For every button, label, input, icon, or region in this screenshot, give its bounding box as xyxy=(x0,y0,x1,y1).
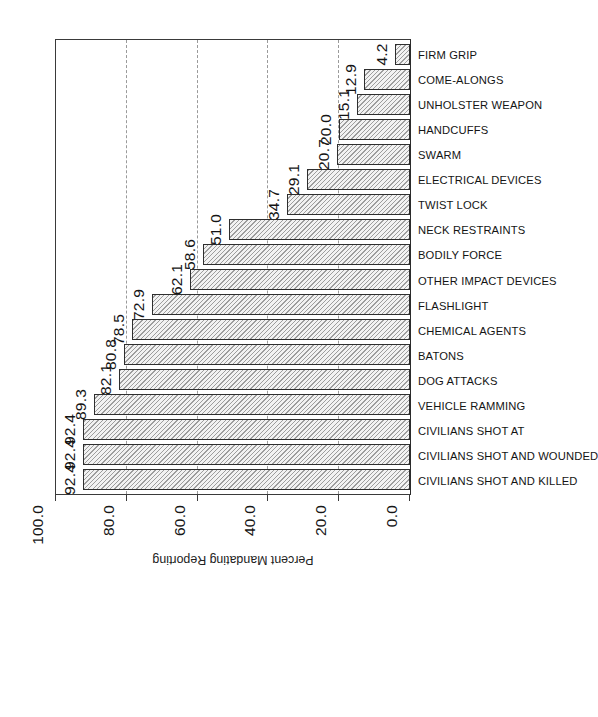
bar-series: 92.492.492.489.382.180.878.572.962.158.6… xyxy=(56,40,410,494)
bar[interactable]: 92.4 xyxy=(83,444,410,465)
value-axis-title: Percent Mandating Reporting xyxy=(55,553,411,567)
bar-slot: 62.1 xyxy=(56,267,410,292)
category-slot: CIVILIANS SHOT AT xyxy=(411,418,435,443)
category-slot: FIRM GRIP xyxy=(411,41,435,66)
bar[interactable]: 34.7 xyxy=(287,194,410,215)
bar-value-label: 51.0 xyxy=(207,214,225,245)
bar-slot: 72.9 xyxy=(56,292,410,317)
value-axis-tick xyxy=(409,494,410,501)
bar[interactable]: 4.2 xyxy=(395,44,410,65)
bar[interactable]: 82.1 xyxy=(119,369,410,390)
value-axis-tick-label: 60.0 xyxy=(171,505,189,536)
bar-slot: 92.4 xyxy=(56,467,410,492)
bar[interactable]: 20.7 xyxy=(337,144,410,165)
category-slot: OTHER IMPACT DEVICES xyxy=(411,267,435,292)
value-axis-tick xyxy=(338,494,339,501)
value-axis-tick-label: 100.0 xyxy=(29,505,47,545)
value-axis-tick xyxy=(267,494,268,501)
bar-slot: 92.4 xyxy=(56,417,410,442)
category-label: BATONS xyxy=(418,350,464,362)
category-label: TWIST LOCK xyxy=(418,199,488,211)
plot-area: 0.020.040.060.080.0100.0 92.492.492.489.… xyxy=(55,39,411,495)
category-slot: HANDCUFFS xyxy=(411,116,435,141)
bar[interactable]: 92.4 xyxy=(83,469,410,490)
category-axis-labels: CIVILIANS SHOT AND KILLEDCIVILIANS SHOT … xyxy=(411,39,435,495)
category-label: FLASHLIGHT xyxy=(418,300,489,312)
bar-value-label: 29.1 xyxy=(285,164,303,195)
bar-value-label: 12.9 xyxy=(342,64,360,95)
category-slot: COME-ALONGS xyxy=(411,66,435,91)
bar[interactable]: 58.6 xyxy=(203,244,410,265)
bar-slot: 80.8 xyxy=(56,342,410,367)
bar[interactable]: 72.9 xyxy=(152,294,410,315)
bar[interactable]: 20.0 xyxy=(339,119,410,140)
category-label: COME-ALONGS xyxy=(418,74,504,86)
value-axis-tick xyxy=(55,494,56,501)
category-label: FIRM GRIP xyxy=(418,49,477,61)
bar[interactable]: 29.1 xyxy=(307,169,410,190)
bar-value-label: 78.5 xyxy=(110,314,128,345)
bar-slot: 51.0 xyxy=(56,217,410,242)
category-slot: CHEMICAL AGENTS xyxy=(411,317,435,342)
bar-value-label: 89.3 xyxy=(72,389,90,420)
category-label: VEHICLE RAMMING xyxy=(418,400,525,412)
category-slot: ELECTRICAL DEVICES xyxy=(411,167,435,192)
category-slot: VEHICLE RAMMING xyxy=(411,393,435,418)
value-axis-tick-label: 80.0 xyxy=(100,505,118,536)
bar-value-label: 20.0 xyxy=(317,114,335,145)
bar-slot: 78.5 xyxy=(56,317,410,342)
bar-slot: 20.0 xyxy=(56,117,410,142)
bar-slot: 20.7 xyxy=(56,142,410,167)
bar-value-label: 4.2 xyxy=(373,43,391,65)
category-slot: DOG ATTACKS xyxy=(411,367,435,392)
bar[interactable]: 80.8 xyxy=(124,344,410,365)
bar-slot: 82.1 xyxy=(56,367,410,392)
bar-value-label: 58.6 xyxy=(181,239,199,270)
bar-slot: 34.7 xyxy=(56,192,410,217)
bar-slot: 89.3 xyxy=(56,392,410,417)
bar[interactable]: 89.3 xyxy=(94,394,410,415)
category-slot: SWARM xyxy=(411,141,435,166)
bar-slot: 58.6 xyxy=(56,242,410,267)
category-slot: TWIST LOCK xyxy=(411,192,435,217)
category-label: NECK RESTRAINTS xyxy=(418,224,525,236)
category-label: UNHOLSTER WEAPON xyxy=(418,99,542,111)
bar-value-label: 34.7 xyxy=(265,189,283,220)
category-label: BODILY FORCE xyxy=(418,249,502,261)
category-label: CIVILIANS SHOT AND WOUNDED xyxy=(418,450,598,462)
bar[interactable]: 62.1 xyxy=(190,269,410,290)
bar[interactable]: 78.5 xyxy=(132,319,410,340)
bar[interactable]: 92.4 xyxy=(83,419,410,440)
bar-slot: 12.9 xyxy=(56,67,410,92)
value-axis-tick xyxy=(126,494,127,501)
bar-slot: 29.1 xyxy=(56,167,410,192)
category-slot: CIVILIANS SHOT AND KILLED xyxy=(411,468,435,493)
bar-slot: 92.4 xyxy=(56,442,410,467)
category-slot: UNHOLSTER WEAPON xyxy=(411,91,435,116)
bar-value-label: 72.9 xyxy=(130,289,148,320)
category-label: HANDCUFFS xyxy=(418,124,488,136)
category-slot: NECK RESTRAINTS xyxy=(411,217,435,242)
bar-slot: 15.1 xyxy=(56,92,410,117)
bar[interactable]: 51.0 xyxy=(229,219,410,240)
category-label: OTHER IMPACT DEVICES xyxy=(418,275,557,287)
bar-slot: 4.2 xyxy=(56,42,410,67)
category-label: CIVILIANS SHOT AND KILLED xyxy=(418,475,578,487)
category-label: DOG ATTACKS xyxy=(418,375,498,387)
bar[interactable]: 15.1 xyxy=(357,94,410,115)
value-axis-title-container: Percent Mandating Reporting xyxy=(55,547,411,567)
category-slot: BODILY FORCE xyxy=(411,242,435,267)
category-slot: CIVILIANS SHOT AND WOUNDED xyxy=(411,443,435,468)
value-axis-tick-label: 0.0 xyxy=(383,505,401,527)
category-slot: BATONS xyxy=(411,342,435,367)
category-label: CHEMICAL AGENTS xyxy=(418,325,526,337)
bar[interactable]: 12.9 xyxy=(364,69,410,90)
category-label: SWARM xyxy=(418,149,461,161)
value-axis-tick-label: 20.0 xyxy=(312,505,330,536)
value-axis-tick xyxy=(197,494,198,501)
value-axis-tick-label: 40.0 xyxy=(241,505,259,536)
category-label: CIVILIANS SHOT AT xyxy=(418,425,525,437)
category-slot: FLASHLIGHT xyxy=(411,292,435,317)
